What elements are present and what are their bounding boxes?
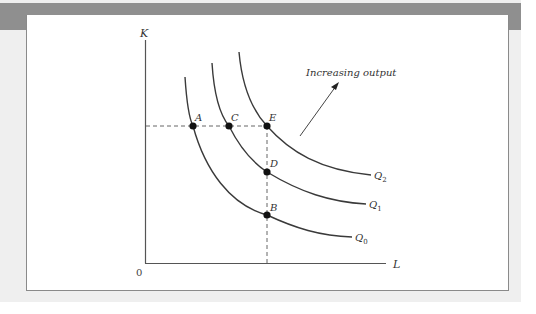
point-e-label: E [268, 112, 277, 123]
point-a [189, 122, 196, 129]
point-e [263, 122, 270, 129]
q0-label: Q0 [355, 232, 368, 246]
y-axis-label: K [139, 27, 149, 40]
increasing-output-arrow [300, 86, 336, 136]
point-d-label: D [269, 158, 278, 169]
point-c-label: C [231, 112, 239, 123]
x-axis-label: L [392, 258, 400, 271]
q2-label: Q2 [374, 170, 387, 184]
origin-label: 0 [136, 267, 142, 278]
point-c [225, 122, 232, 129]
isoquant-diagram: K L 0 Increasing output A C E D B Q2 Q1 … [0, 0, 536, 314]
arrow-head-icon [331, 82, 339, 90]
q1-label: Q1 [369, 199, 382, 213]
point-a-label: A [194, 112, 202, 123]
point-d [263, 168, 270, 175]
annotation-label: Increasing output [305, 67, 397, 78]
isoquant-q1 [212, 63, 366, 204]
point-b-label: B [269, 202, 277, 213]
